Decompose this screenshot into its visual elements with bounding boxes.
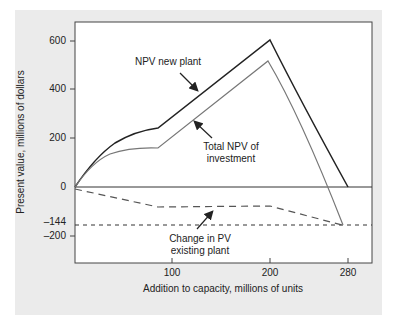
- annotation-change-pv-1: Change in PV: [169, 233, 231, 244]
- svg-text:400: 400: [49, 83, 66, 94]
- svg-text:200: 200: [262, 267, 279, 278]
- svg-text:200: 200: [49, 132, 66, 143]
- svg-text:280: 280: [340, 267, 357, 278]
- x-axis-label: Addition to capacity, millions of units: [143, 283, 303, 294]
- y-axis-label: Present value, millions of dollars: [15, 70, 26, 213]
- svg-text:100: 100: [164, 267, 181, 278]
- annotation-npv-new-plant: NPV new plant: [135, 56, 201, 67]
- svg-text:0: 0: [60, 181, 66, 192]
- y-axis: 600 400 200 0 –144 –200: [44, 35, 75, 241]
- svg-text:–144: –144: [44, 216, 67, 227]
- annotation-change-pv-2: existing plant: [171, 245, 230, 256]
- svg-text:–200: –200: [44, 230, 67, 241]
- annotation-total-npv-2: investment: [207, 153, 256, 164]
- annotation-total-npv-1: Total NPV of: [203, 141, 259, 152]
- svg-text:600: 600: [49, 35, 66, 46]
- chart: 600 400 200 0 –144 –200 Present value, m…: [0, 0, 397, 321]
